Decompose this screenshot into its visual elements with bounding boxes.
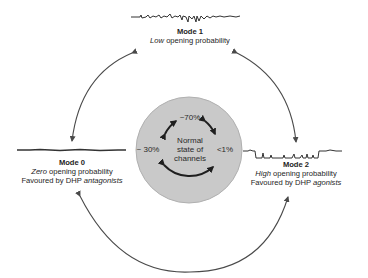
mode0-label: Mode 0 Zero opening probability Favoured… xyxy=(6,158,138,185)
normal-state-label: Normal state of channels xyxy=(164,136,216,163)
mode2-title: Mode 2 xyxy=(236,160,356,169)
mode1-trace xyxy=(131,14,240,22)
arrow-mode0-mode2 xyxy=(80,196,288,272)
mode1-description: Low opening probability xyxy=(140,36,240,45)
mode0-description: Zero opening probability xyxy=(6,167,138,176)
arrow-mode1-mode2 xyxy=(237,53,296,142)
arrow-mode1-mode0 xyxy=(72,53,132,141)
pct-70: ~70% xyxy=(172,113,208,122)
mode2-favoured-by: Favoured by DHP agonists xyxy=(236,178,356,187)
mode0-favoured-by: Favoured by DHP antagonists xyxy=(6,176,138,185)
pct-30: ~ 30% xyxy=(131,145,165,154)
mode2-description: High opening probability xyxy=(236,169,356,178)
mode1-title: Mode 1 xyxy=(140,27,240,36)
mode1-label: Mode 1 Low opening probability xyxy=(140,27,240,45)
mode2-label: Mode 2 High opening probability Favoured… xyxy=(236,160,356,187)
mode0-title: Mode 0 xyxy=(6,158,138,167)
mode0-trace xyxy=(17,150,126,151)
mode2-trace xyxy=(243,150,342,158)
